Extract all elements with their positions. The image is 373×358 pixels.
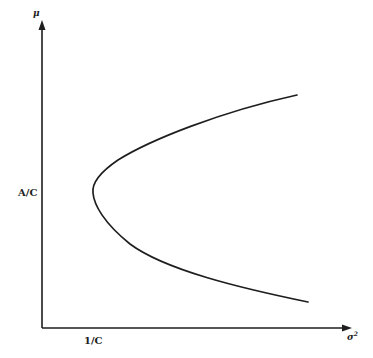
diagram-plot xyxy=(0,0,373,358)
y-axis-arrow-icon xyxy=(39,20,46,30)
x-axis-label-superscript: 2 xyxy=(354,330,358,337)
y-tick-label: A/C xyxy=(18,188,37,198)
x-tick-label: 1/C xyxy=(84,336,103,346)
mean-variance-diagram: μ A/C 1/C σ2 xyxy=(0,0,373,358)
x-axis-label-base: σ xyxy=(347,332,354,342)
frontier-curve xyxy=(93,95,308,302)
y-axis-label: μ xyxy=(33,9,40,18)
x-axis-label: σ2 xyxy=(347,331,358,342)
